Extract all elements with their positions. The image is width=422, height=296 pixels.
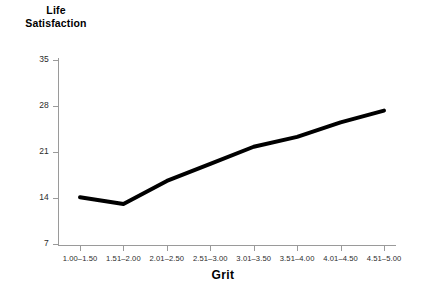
x-axis-title: Grit <box>58 268 388 282</box>
line-series-life-satisfaction <box>80 111 384 204</box>
chart-figure: Life Satisfaction 714212835 1.00–1.501.5… <box>0 0 422 296</box>
series-layer <box>0 0 422 296</box>
